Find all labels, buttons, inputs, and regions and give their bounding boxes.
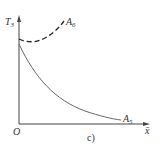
curve-a6	[19, 21, 64, 42]
y-axis-label: T3	[5, 17, 14, 29]
curve-a5-label: A5	[123, 114, 133, 126]
origin-label: O	[13, 127, 20, 137]
plot-canvas	[0, 0, 163, 152]
x-axis-label: x̄	[145, 126, 149, 136]
y-axis-arrow-icon	[17, 15, 21, 22]
curve-a5	[19, 44, 121, 120]
curve-a6-label: A6	[66, 17, 76, 29]
figure-caption: c)	[87, 133, 95, 143]
diagram-figure: T3 A6 A5 O x̄ c)	[0, 0, 163, 152]
